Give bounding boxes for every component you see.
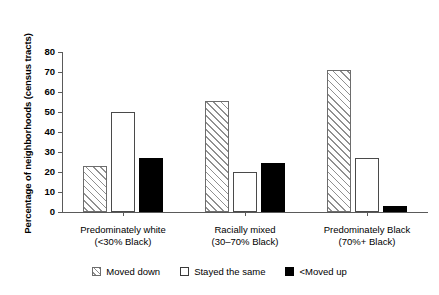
y-axis-tick: 70 [28, 72, 62, 73]
y-axis-tick: 80 [28, 52, 62, 53]
y-axis-tick-mark [58, 172, 62, 173]
x-axis-label-line-1: Predominately Black [324, 224, 411, 235]
x-axis-tick-mark [123, 212, 124, 216]
y-axis-tick-mark [58, 52, 62, 53]
y-axis-tick-label: 70 [44, 66, 55, 77]
plot-area: 01020304050607080 Predominately white(<3… [62, 52, 428, 212]
x-axis-label-line-1: Predominately white [80, 224, 166, 235]
hatched-swatch [92, 267, 101, 276]
bar-group [205, 52, 285, 212]
bar [383, 206, 407, 212]
y-axis-line [62, 52, 63, 213]
y-axis-tick-label: 80 [44, 46, 55, 57]
bar [139, 158, 163, 212]
y-axis-tick-label: 60 [44, 86, 55, 97]
y-axis-tick: 50 [28, 112, 62, 113]
bar [83, 166, 107, 212]
bar [111, 112, 135, 212]
y-axis-tick-mark [58, 92, 62, 93]
y-axis-tick-label: 0 [50, 206, 55, 217]
y-axis-title: Percentage of neighborhoods (census trac… [22, 19, 33, 249]
x-axis-tick-mark [245, 212, 246, 216]
x-axis-label-line-2: (70%+ Black) [287, 236, 439, 248]
white-swatch [180, 267, 189, 276]
bar-chart-figure: Percentage of neighborhoods (census trac… [0, 0, 439, 295]
legend-item[interactable]: Stayed the same [180, 266, 265, 277]
bar-group [327, 52, 407, 212]
bar [261, 163, 285, 212]
bar [327, 70, 351, 212]
bar [355, 158, 379, 212]
y-axis-tick: 0 [28, 212, 62, 213]
x-axis-label-line-1: Racially mixed [214, 224, 275, 235]
legend-item-label: Stayed the same [194, 266, 265, 277]
y-axis-tick-mark [58, 132, 62, 133]
legend-item-label: Moved down [106, 266, 160, 277]
x-axis-tick-label: Predominately Black(70%+ Black) [287, 224, 439, 248]
y-axis-tick-mark [58, 152, 62, 153]
y-axis-tick-mark [58, 212, 62, 213]
y-axis-tick-label: 10 [44, 186, 55, 197]
y-axis-tick-label: 20 [44, 166, 55, 177]
y-axis-tick-label: 50 [44, 106, 55, 117]
y-axis-tick-mark [58, 72, 62, 73]
bar [205, 101, 229, 212]
bar-group [83, 52, 163, 212]
y-axis-tick-mark [58, 112, 62, 113]
y-axis-tick: 40 [28, 132, 62, 133]
y-axis-tick: 10 [28, 192, 62, 193]
y-axis-tick-label: 40 [44, 126, 55, 137]
y-axis-tick: 60 [28, 92, 62, 93]
legend-item[interactable]: <Moved up [285, 266, 346, 277]
black-swatch [285, 267, 294, 276]
legend-item[interactable]: Moved down [92, 266, 160, 277]
y-axis-tick-label: 30 [44, 146, 55, 157]
x-axis-tick-mark [367, 212, 368, 216]
bar [233, 172, 257, 212]
y-axis-tick-mark [58, 192, 62, 193]
y-axis-tick: 20 [28, 172, 62, 173]
legend-item-label: <Moved up [299, 266, 346, 277]
y-axis-tick: 30 [28, 152, 62, 153]
chart-legend: Moved downStayed the same<Moved up [0, 266, 439, 277]
